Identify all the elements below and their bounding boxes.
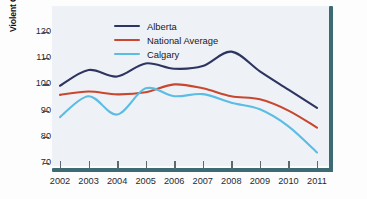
legend-item-calgary: Calgary bbox=[114, 47, 218, 61]
y-tick-mark bbox=[43, 58, 49, 59]
x-tick-mark bbox=[317, 161, 318, 169]
y-tick-label: 100 bbox=[11, 78, 51, 88]
y-tick-label: 110 bbox=[11, 52, 51, 62]
y-tick-mark bbox=[43, 111, 49, 112]
y-tick-mark bbox=[43, 163, 49, 164]
y-tick-label: 120 bbox=[11, 26, 51, 36]
x-tick-mark bbox=[288, 161, 289, 169]
y-tick-label: 70 bbox=[11, 157, 51, 167]
series-line-national-average bbox=[60, 84, 317, 127]
x-tick-mark bbox=[231, 161, 232, 169]
y-tick-mark bbox=[43, 32, 49, 33]
y-tick-mark bbox=[43, 137, 49, 138]
x-tick-label: 2011 bbox=[297, 176, 337, 186]
x-tick-mark bbox=[60, 161, 61, 169]
legend-swatch-icon bbox=[114, 25, 140, 28]
series-line-calgary bbox=[60, 88, 317, 153]
y-tick-label: 90 bbox=[11, 105, 51, 115]
legend-label: National Average bbox=[147, 35, 218, 46]
plot-area: Violent Crime Severity Index 12011010090… bbox=[52, 6, 335, 172]
x-tick-mark bbox=[146, 161, 147, 169]
legend-item-national-average: National Average bbox=[114, 33, 218, 47]
axis-right-rule bbox=[329, 6, 333, 172]
x-tick-mark bbox=[203, 161, 204, 169]
legend-label: Alberta bbox=[147, 21, 177, 32]
x-tick-mark bbox=[117, 161, 118, 169]
x-tick-mark bbox=[260, 161, 261, 169]
x-tick-mark bbox=[174, 161, 175, 169]
chart-legend: AlbertaNational AverageCalgary bbox=[114, 19, 218, 61]
legend-swatch-icon bbox=[114, 53, 140, 56]
chart-figure: Violent Crime Severity Index 12011010090… bbox=[0, 0, 367, 199]
legend-label: Calgary bbox=[147, 49, 179, 60]
y-tick-label: 80 bbox=[11, 131, 51, 141]
legend-swatch-icon bbox=[114, 39, 140, 42]
legend-item-alberta: Alberta bbox=[114, 19, 218, 33]
x-tick-mark bbox=[89, 161, 90, 169]
axis-bottom-rule bbox=[52, 168, 333, 172]
y-tick-mark bbox=[43, 84, 49, 85]
